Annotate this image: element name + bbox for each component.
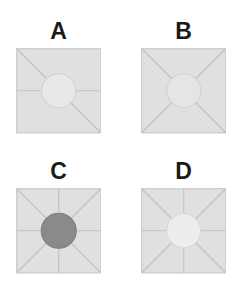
figure-root: A B: [0, 0, 231, 296]
panel-a-figure: [16, 48, 101, 134]
panel-d-circle: [167, 214, 201, 248]
panel-c-label: C: [16, 158, 101, 184]
panel-c-circle: [41, 213, 76, 248]
panel-a-circle: [42, 74, 76, 108]
panel-b-circle: [167, 74, 201, 108]
panel-a-label: A: [16, 18, 101, 44]
panel-a-diagram: [16, 48, 101, 134]
panel-b-label: B: [141, 18, 226, 44]
panel-b: B: [141, 18, 226, 138]
panel-c: C: [16, 158, 101, 278]
panel-d-label: D: [141, 158, 226, 184]
panel-b-figure: [141, 48, 226, 134]
panel-d-diagram: [141, 188, 226, 274]
panel-a: A: [16, 18, 101, 138]
panel-c-figure: [16, 188, 101, 274]
panel-d: D: [141, 158, 226, 278]
panel-b-diagram: [141, 48, 226, 134]
panel-c-diagram: [16, 188, 101, 274]
panel-d-figure: [141, 188, 226, 274]
